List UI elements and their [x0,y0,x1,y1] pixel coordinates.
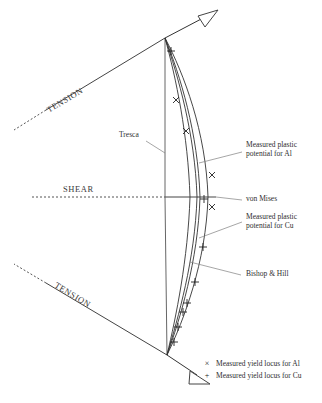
legend-item-al: × Measured yield locus for Al [203,359,300,368]
tension-axis-top-arrowhead [198,10,218,27]
marker-al [209,204,215,210]
plus-marker-cu-icon: + [203,371,211,380]
axis-label-shear: SHEAR [63,184,94,194]
leader-line-von-mises [216,197,242,200]
callout-tresca: Tresca [119,131,139,140]
leader-line-tresca [146,141,165,153]
markers-al-group [173,97,215,210]
callout-measured-plastic-potential-al: Measured plastic potential for Al [246,141,297,159]
callout-bishop-hill: Bishop & Hill [246,270,289,279]
marker-cu [199,243,207,251]
legend-item-cu: + Measured yield locus for Cu [203,371,301,380]
marker-al [209,172,215,178]
yield-locus-figure: TENSION TENSION SHEAR Tresca Measured pl… [0,0,322,403]
tension-axis-bottom-dashed [14,264,46,283]
marker-cu [191,278,199,286]
cross-marker-al-icon: × [203,359,211,368]
tension-axis-bottom-solid [167,355,197,375]
callout-von-mises: von Mises [246,195,277,204]
axes-group [14,10,218,384]
marker-al [173,97,179,103]
legend-label-al: Measured yield locus for Al [216,359,300,368]
marker-cu [200,195,208,203]
tension-axis-top-dashed [14,110,46,130]
leader-line-measured-plastic-potential-al [199,152,242,163]
callout-measured-plastic-potential-cu: Measured plastic potential for Cu [246,213,297,231]
tension-axis-top-solid [165,17,205,38]
legend-label-cu: Measured yield locus for Cu [216,371,301,380]
leader-line-bishop-hill [190,262,241,275]
